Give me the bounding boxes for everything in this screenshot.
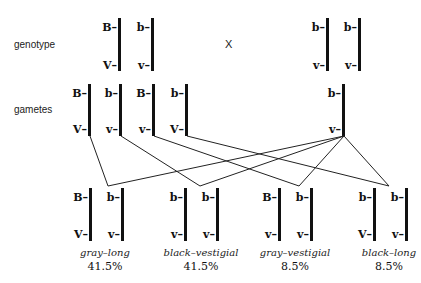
allele-label: b–: [391, 192, 404, 203]
allele-label: v–: [297, 229, 309, 240]
chromosome: [184, 188, 187, 241]
chromosome: [278, 188, 281, 241]
percentage-label: 8.5%: [339, 260, 421, 273]
allele-label: b–: [170, 192, 183, 203]
chromosome: [121, 188, 124, 241]
allele-label: v–: [203, 229, 215, 240]
phenotype-label: black–vestigial: [151, 247, 251, 258]
percentage-label: 8.5%: [245, 260, 345, 273]
phenotype-label: gray–vestigial: [245, 247, 345, 258]
chromosome: [216, 188, 219, 241]
chromosome: [89, 188, 92, 241]
phenotype-label: gray–long: [55, 247, 155, 258]
percentage-label: 41.5%: [151, 260, 251, 273]
allele-label: v–: [108, 229, 120, 240]
allele-label: v–: [171, 229, 183, 240]
allele-label: B–: [262, 192, 277, 203]
allele-label: V–: [358, 229, 372, 240]
allele-label: v–: [392, 229, 404, 240]
allele-label: B–: [73, 192, 88, 203]
allele-label: b–: [296, 192, 309, 203]
allele-label: b–: [359, 192, 372, 203]
chromosome: [405, 188, 408, 241]
allele-label: b–: [107, 192, 120, 203]
allele-label: v–: [265, 229, 277, 240]
percentage-label: 41.5%: [55, 260, 155, 273]
allele-label: V–: [74, 229, 88, 240]
allele-label: b–: [202, 192, 215, 203]
chromosome: [310, 188, 313, 241]
chromosome: [373, 188, 376, 241]
phenotype-label: black–long: [339, 247, 421, 258]
